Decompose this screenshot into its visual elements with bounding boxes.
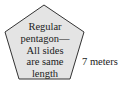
description-line-4: are same — [12, 56, 78, 68]
side-length-label: 7 meters — [82, 56, 118, 67]
description-line-1: Regular — [12, 21, 78, 33]
description-line-2: pentagon— — [12, 33, 78, 45]
pentagon-description: Regular pentagon— All sides are same len… — [12, 21, 78, 80]
description-line-3: All sides — [12, 45, 78, 57]
description-line-5: length — [12, 68, 78, 80]
